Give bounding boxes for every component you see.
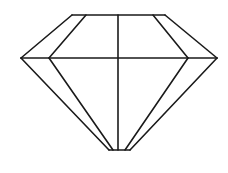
diamond-diagram [0,0,228,173]
background [0,0,228,173]
